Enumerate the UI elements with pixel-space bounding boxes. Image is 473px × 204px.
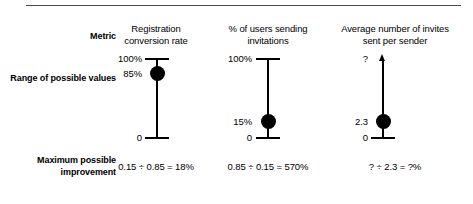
value-marker-1 [261,114,276,129]
max-improvement-formula-0: 0.15 ÷ 0.85 = 18% [104,161,208,173]
column-header-2-line1: Average number of invites [320,23,470,35]
value-label-2: 2.3 [320,116,368,127]
axis-bottom-cap-1 [256,137,280,139]
axis-bottom-label-0: 0 [98,132,142,143]
column-header-0: Registration conversion rate [104,23,208,47]
range-plot-percent-users-sending-invitations: 100% 15% 0 [214,52,322,144]
column-header-1: % of users sending invitations [214,23,322,47]
column-header-2-line2: sent per sender [320,35,470,47]
axis-bottom-cap-2 [371,137,395,139]
axis-bottom-label-2: 0 [320,132,368,143]
value-marker-2 [376,114,391,129]
value-marker-0 [150,66,165,81]
max-improvement-formula-1: 0.85 ÷ 0.15 = 570% [214,161,322,173]
column-header-1-line2: invitations [214,35,322,47]
metric-range-figure: Metric Range of possible values Maximum … [0,0,473,204]
value-label-0: 85% [98,68,142,79]
range-plot-average-invites-per-sender: ? 2.3 0 [320,52,470,144]
axis-top-label-2: ? [320,53,368,64]
column-header-1-line1: % of users sending [214,23,322,35]
max-improvement-formula-2: ? ÷ 2.3 = ?% [320,161,470,173]
row-label-maximum-possible-improvement: Maximum possible improvement [8,155,116,178]
column-header-0-line2: conversion rate [104,35,208,47]
axis-bottom-label-1: 0 [206,132,252,143]
axis-top-label-0: 100% [98,53,142,64]
column-header-0-line1: Registration [104,23,208,35]
axis-bottom-cap-0 [145,137,169,139]
range-plot-registration-conversion-rate: 100% 85% 0 [104,52,208,144]
axis-top-label-1: 100% [206,53,252,64]
row-label-metric: Metric [8,31,116,43]
top-divider-rule [26,5,461,6]
value-label-1: 15% [206,116,252,127]
column-header-2: Average number of invites sent per sende… [320,23,470,47]
